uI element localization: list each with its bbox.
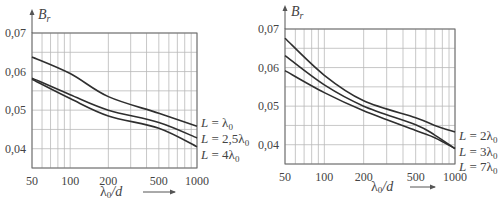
y-tick-label: 0,07 [5,26,26,40]
plot-frame [285,29,455,164]
y-tick-label: 0,07 [258,22,279,36]
x-tick-label: 1000 [185,174,209,188]
y-axis-label: Br [38,7,51,24]
series-line-3 [285,71,455,149]
x-tick-label: 500 [407,170,425,184]
y-axis-arrow-icon [283,5,288,11]
chart-panel-1: Br0,040,050,060,07501002005001000λ0/dL =… [5,7,250,200]
y-tick-label: 0,06 [5,65,26,79]
y-tick-label: 0,04 [5,142,26,156]
chart-canvas: Br0,040,050,060,07501002005001000λ0/dL =… [0,0,504,203]
x-axis-label: λ0/d [371,179,394,195]
y-tick-label: 0,05 [258,99,279,113]
x-tick-label: 50 [279,170,291,184]
x-tick-label: 500 [150,174,168,188]
series-line-2 [32,78,197,138]
plot-frame [32,33,197,168]
y-axis-arrow-icon [30,9,35,15]
x-tick-label: 100 [61,174,79,188]
series-label-2: L = 2,5λ0 [200,131,250,148]
series-line-2 [285,56,455,149]
y-tick-label: 0,04 [258,138,279,152]
series-label-3: L = 4λ0 [200,147,240,164]
y-tick-label: 0,05 [5,103,26,117]
chart-panel-2: Br0,040,050,060,07501002005001000λ0/dL =… [258,4,498,195]
grid [32,33,197,168]
arrow-right-icon [430,185,436,190]
arrow-right-icon [170,190,176,195]
series-label-3: L = 7λ0 [458,159,498,176]
series-label-1: L = λ0 [200,115,233,132]
series-label-1: L = 2λ0 [458,128,498,145]
x-tick-label: 100 [315,170,333,184]
x-axis-label: λ0/d [100,184,123,200]
y-axis-label: Br [291,4,304,21]
y-tick-label: 0,06 [258,61,279,75]
chart-figure: Br0,040,050,060,07501002005001000λ0/dL =… [0,0,504,203]
x-tick-label: 200 [355,170,373,184]
x-tick-label: 50 [26,174,38,188]
grid [285,29,455,164]
